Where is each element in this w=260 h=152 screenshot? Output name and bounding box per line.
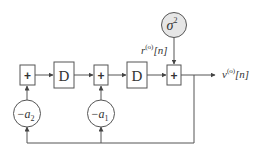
gain-a1-subscript: 1 bbox=[104, 114, 108, 123]
gain-a2-subscript: 2 bbox=[30, 114, 34, 123]
summer-3-label: + bbox=[170, 69, 177, 83]
noise-source-superscript: 2 bbox=[173, 16, 177, 25]
summer-1: + bbox=[20, 65, 35, 85]
signal-paths bbox=[27, 37, 215, 143]
ar-process-block-diagram: + + + D D −a2 −a1 σ2 r(o)[n] bbox=[0, 0, 260, 152]
summer-2-label: + bbox=[97, 69, 104, 83]
delay-block-2-label: D bbox=[132, 68, 143, 84]
gain-a2: −a2 bbox=[14, 100, 41, 127]
output-signal-label: v(o)[n] bbox=[222, 67, 249, 80]
summer-3: + bbox=[167, 65, 181, 85]
delay-block-2: D bbox=[127, 62, 147, 88]
summer-1-label: + bbox=[24, 69, 31, 83]
input-signal-argument: [n] bbox=[153, 44, 167, 56]
delay-block-1-label: D bbox=[59, 68, 70, 84]
output-signal-argument: [n] bbox=[235, 68, 249, 80]
gain-a1: −a1 bbox=[88, 100, 115, 127]
summer-2: + bbox=[94, 65, 108, 85]
delay-block-1: D bbox=[54, 62, 74, 88]
input-signal-label: r(o)[n] bbox=[141, 43, 168, 56]
noise-source: σ2 bbox=[162, 13, 187, 38]
